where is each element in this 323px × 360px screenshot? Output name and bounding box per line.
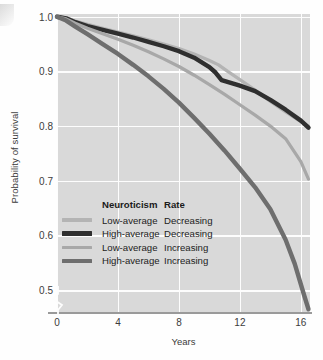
legend-swatch-cell	[62, 259, 102, 263]
y-tick-label: 0.9	[13, 66, 53, 77]
x-axis-line	[48, 312, 312, 314]
legend-rate-label: Decreasing	[164, 215, 213, 226]
x-axis-title: Years	[57, 336, 310, 347]
legend-color-swatch	[62, 218, 92, 221]
legend-neuroticism-label: High-average	[102, 255, 164, 266]
legend-row: High-averageIncreasing	[62, 255, 237, 266]
survival-curve	[57, 17, 308, 128]
legend-header-neuroticism: Neuroticism	[102, 199, 164, 210]
y-axis-break-icon	[50, 286, 66, 314]
legend-rate-label: Increasing	[164, 242, 208, 253]
legend-swatch-cell	[62, 218, 102, 221]
legend-header: Neuroticism Rate	[62, 199, 237, 210]
legend-color-swatch	[62, 246, 92, 249]
x-tick-label: 16	[281, 317, 321, 328]
x-tick-label: 0	[37, 317, 77, 328]
legend-row: Low-averageIncreasing	[62, 242, 237, 253]
legend: Neuroticism Rate Low-averageDecreasingHi…	[62, 199, 237, 269]
legend-header-rate: Rate	[164, 199, 185, 210]
y-axis-tick-labels: 1.00.90.80.70.60.5	[8, 14, 53, 312]
legend-color-swatch	[62, 259, 92, 263]
x-tick-label: 4	[98, 317, 138, 328]
legend-neuroticism-label: High-average	[102, 228, 164, 239]
y-tick-label: 0.6	[13, 230, 53, 241]
x-tick-label: 12	[220, 317, 260, 328]
y-tick-label: 0.5	[13, 285, 53, 296]
legend-swatch-cell	[62, 246, 102, 249]
legend-color-swatch	[62, 231, 92, 235]
x-axis-tick-labels: 0481216	[57, 317, 310, 333]
legend-rate-label: Decreasing	[164, 228, 213, 239]
legend-neuroticism-label: Low-average	[102, 242, 164, 253]
x-tick-label: 8	[159, 317, 199, 328]
survival-curve	[57, 17, 308, 126]
y-tick-label: 0.8	[13, 121, 53, 132]
y-tick-label: 1.0	[13, 11, 53, 22]
legend-neuroticism-label: Low-average	[102, 215, 164, 226]
legend-rate-label: Increasing	[164, 255, 208, 266]
survival-chart-figure: Probability of survival 1.00.90.80.70.60…	[0, 0, 323, 360]
legend-rows: Low-averageDecreasingHigh-averageDecreas…	[62, 215, 237, 267]
legend-row: High-averageDecreasing	[62, 228, 237, 239]
y-tick-label: 0.7	[13, 175, 53, 186]
legend-swatch-cell	[62, 231, 102, 235]
legend-row: Low-averageDecreasing	[62, 215, 237, 226]
